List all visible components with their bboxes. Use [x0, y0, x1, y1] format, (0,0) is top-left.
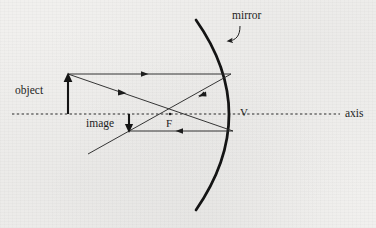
- object-label: object: [15, 85, 43, 97]
- ray-parallel-incident-arrowhead: [141, 71, 149, 77]
- mirror-label: mirror: [232, 10, 261, 22]
- optics-diagram-figure: mirror object image F V axis: [0, 0, 376, 228]
- axis-label: axis: [345, 108, 364, 120]
- image-label: image: [86, 118, 114, 130]
- vertex-label: V: [240, 107, 248, 118]
- focal-point-marker: [169, 113, 172, 116]
- ray-incident-to-vertex-arrowhead: [118, 89, 127, 95]
- image-arrow-head: [125, 124, 133, 133]
- ray-reflected-lower-arrowhead: [176, 128, 184, 134]
- mirror-arc: [196, 20, 229, 210]
- ray-diagram-canvas: [0, 0, 376, 228]
- mirror-callout-arrow: [229, 26, 240, 41]
- focal-point-label: F: [166, 118, 172, 129]
